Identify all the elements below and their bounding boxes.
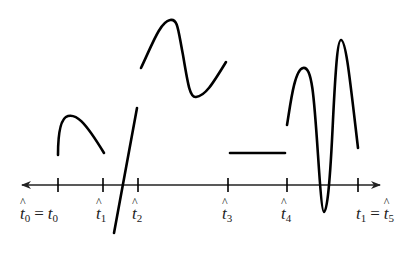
t0-hat-symbol: t0 xyxy=(20,205,30,224)
diagram-canvas xyxy=(0,0,415,260)
segment-3-wave xyxy=(141,20,226,97)
function-segments xyxy=(58,20,358,233)
piecewise-function-diagram: t0=t0 t1 t2 t3 t4 t1=t5 xyxy=(0,0,415,260)
label-t4hat: t4 xyxy=(281,205,291,224)
t5-hat-symbol: t5 xyxy=(384,205,394,224)
t0-symbol: t0 xyxy=(48,204,58,223)
segment-1-hump xyxy=(58,116,104,155)
label-t0hat-equals-t0: t0=t0 xyxy=(20,205,58,224)
label-t1hat: t1 xyxy=(96,205,106,224)
label-t2hat: t2 xyxy=(132,205,142,224)
label-t1-equals-t5hat: t1=t5 xyxy=(356,205,394,224)
t1-symbol: t1 xyxy=(356,204,366,223)
segment-5-oscillation xyxy=(287,40,358,212)
label-t3hat: t3 xyxy=(222,205,232,224)
